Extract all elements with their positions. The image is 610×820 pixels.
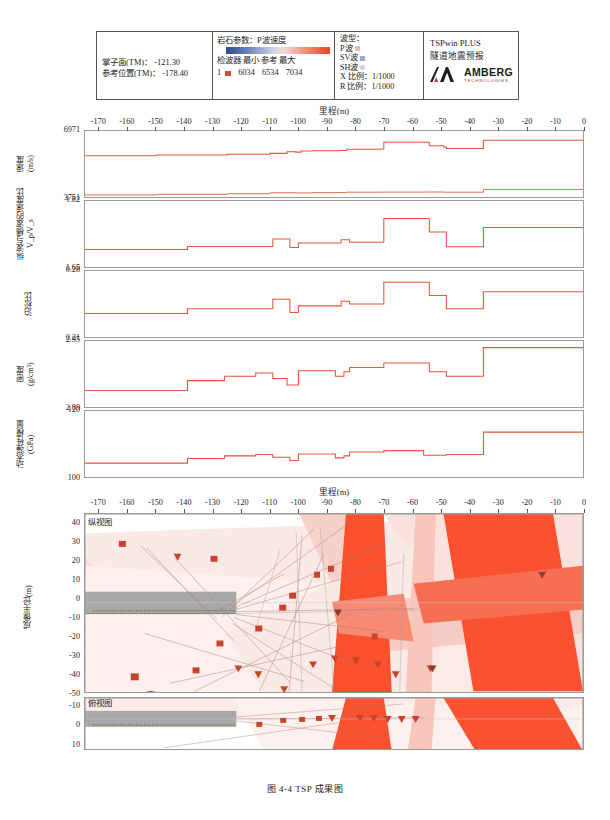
y-tick-density-ymax: 2.95 bbox=[40, 335, 80, 344]
colorbar bbox=[226, 47, 330, 54]
plan-y-tick: -10 bbox=[44, 700, 80, 709]
wave-type-p: P波 bbox=[340, 44, 419, 54]
software-subtitle: 隧道地震预报 bbox=[430, 50, 513, 63]
plan-view-panel[interactable] bbox=[84, 697, 584, 750]
x-tick-mark bbox=[298, 127, 299, 131]
imaging-y-tick: 0 bbox=[44, 594, 80, 603]
amberg-wordmark: AMBERG TECHNOLOGIES bbox=[464, 67, 513, 83]
x-tick-label: -30 bbox=[493, 117, 504, 126]
x-tick-label: -80 bbox=[350, 117, 361, 126]
x-tick-mark bbox=[441, 127, 442, 131]
sh-wave-swatch bbox=[360, 65, 365, 70]
x-tick-label: -170 bbox=[91, 498, 106, 507]
x-tick-label: -100 bbox=[291, 498, 306, 507]
x-tick-mark bbox=[413, 509, 414, 513]
imaging-y-tick: -40 bbox=[44, 670, 80, 679]
x-tick-label: -140 bbox=[176, 498, 191, 507]
amberg-name: AMBERG bbox=[464, 67, 513, 78]
x-tick-label: -150 bbox=[148, 117, 163, 126]
header-legend-panel: 掌子面(TM)： -121.30 参考位置(TM)： -178.40 岩石参数：… bbox=[96, 31, 519, 100]
y-axis-title-poisson: 泊松比 bbox=[24, 278, 34, 330]
x-tick-label: -90 bbox=[321, 498, 332, 507]
amberg-tagline: TECHNOLOGIES bbox=[464, 79, 513, 83]
software-name: TSPwin PLUS bbox=[430, 37, 513, 50]
face-position-line: 掌子面(TM)： -121.30 bbox=[102, 57, 207, 68]
plan-view-graphic bbox=[85, 698, 583, 750]
x-tick-mark bbox=[184, 509, 185, 513]
bottom-x-axis-ticks: -170-160-150-140-130-120-110-100-90-80-7… bbox=[0, 498, 610, 510]
panel-poisson[interactable] bbox=[84, 270, 584, 338]
panel-density[interactable] bbox=[84, 340, 584, 408]
x-tick-mark bbox=[270, 127, 271, 131]
x-tick-mark bbox=[555, 127, 556, 131]
y-tick-modulus-ymax: 120 bbox=[40, 405, 80, 414]
x-tick-mark bbox=[384, 127, 385, 131]
x-tick-label: -130 bbox=[205, 498, 220, 507]
wave-type-sv: SV波 bbox=[340, 53, 419, 63]
x-tick-label: -10 bbox=[550, 117, 561, 126]
rock-max-value: 7034 bbox=[286, 67, 303, 79]
x-tick-label: -100 bbox=[291, 117, 306, 126]
top-x-axis-title: 里程(m) bbox=[84, 104, 584, 116]
imaging-y-tick: -30 bbox=[44, 651, 80, 660]
x-tick-label: -60 bbox=[407, 498, 418, 507]
rock-min-value: 6034 bbox=[238, 67, 255, 79]
x-tick-label: -140 bbox=[176, 117, 191, 126]
x-tick-mark bbox=[184, 127, 185, 131]
panel-velocity[interactable] bbox=[84, 130, 584, 198]
x-tick-label: -120 bbox=[234, 498, 249, 507]
x-tick-mark bbox=[498, 127, 499, 131]
section-view-graphic bbox=[85, 514, 583, 693]
y-axis-title-modulus: 动态弹性模量(GPa) bbox=[16, 418, 36, 470]
y-tick-poisson-ymax: 0.28 bbox=[40, 265, 80, 274]
section-view-panel[interactable] bbox=[84, 513, 584, 693]
y-axis-title-velocity: 速度(m/s) bbox=[16, 138, 36, 190]
geophone-color-swatch bbox=[225, 71, 231, 76]
rock-parameter-values: 1 6034 6534 7034 bbox=[217, 67, 330, 79]
imaging-y-tick: -20 bbox=[44, 632, 80, 641]
x-tick-label: -160 bbox=[119, 498, 134, 507]
x-tick-mark bbox=[127, 509, 128, 513]
legend-rock-parameter-cell: 岩石参数：P波速度 检波器 最小 参考 最大 1 6034 6534 7034 bbox=[213, 32, 335, 99]
panel-modulus[interactable] bbox=[84, 410, 584, 478]
x-tick-mark bbox=[355, 509, 356, 513]
x-tick-label: 0 bbox=[582, 117, 586, 126]
x-tick-label: -50 bbox=[436, 117, 447, 126]
x-tick-mark bbox=[555, 509, 556, 513]
x-tick-label: -60 bbox=[407, 117, 418, 126]
x-tick-mark bbox=[213, 127, 214, 131]
x-tick-mark bbox=[470, 509, 471, 513]
y-tick-velocity-ymax: 6971 bbox=[40, 125, 80, 134]
x-tick-label: -70 bbox=[379, 117, 390, 126]
x-tick-mark bbox=[527, 127, 528, 131]
plan-view-label: 俯视图 bbox=[88, 696, 112, 708]
x-tick-mark bbox=[127, 127, 128, 131]
rock-ref-value: 6534 bbox=[262, 67, 279, 79]
x-tick-mark bbox=[413, 127, 414, 131]
x-tick-mark bbox=[213, 509, 214, 513]
y-tick-modulus-ymin: 100 bbox=[40, 473, 80, 482]
x-tick-label: -20 bbox=[521, 498, 532, 507]
x-tick-mark bbox=[241, 127, 242, 131]
x-tick-mark bbox=[155, 509, 156, 513]
x-tick-label: -40 bbox=[464, 498, 475, 507]
figure-caption: 图 4-4 TSP 成果图 bbox=[0, 782, 610, 795]
geophone-channel: 1 bbox=[217, 67, 221, 79]
legend-face-position-cell: 掌子面(TM)： -121.30 参考位置(TM)： -178.40 bbox=[97, 32, 213, 99]
tsp-imaging-chart: 里程(m) -170-160-150-140-130-120-110-100-9… bbox=[0, 486, 610, 776]
panel-vp_vs[interactable] bbox=[84, 200, 584, 268]
x-tick-mark bbox=[470, 127, 471, 131]
x-tick-label: -10 bbox=[550, 498, 561, 507]
reference-position-line: 参考位置(TM)： -178.40 bbox=[102, 68, 207, 79]
imaging-y-axis-title: 成像半径(m) bbox=[24, 564, 34, 650]
x-tick-mark bbox=[98, 127, 99, 131]
x-tick-label: -20 bbox=[521, 117, 532, 126]
x-tick-mark bbox=[298, 509, 299, 513]
x-tick-label: -160 bbox=[119, 117, 134, 126]
x-tick-label: -170 bbox=[91, 117, 106, 126]
amberg-mark-icon bbox=[430, 67, 460, 82]
y-tick-vp_vs-ymax: 1.82 bbox=[40, 195, 80, 204]
rock-parameter-header: 检波器 最小 参考 最大 bbox=[217, 55, 330, 66]
x-tick-mark bbox=[327, 509, 328, 513]
amberg-logo: AMBERG TECHNOLOGIES bbox=[430, 67, 513, 83]
